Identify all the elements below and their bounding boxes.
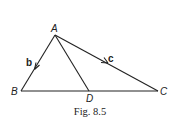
point-label-c: C [160,86,168,97]
vector-label-c: c [108,53,114,64]
figure-caption: Fig. 8.5 [74,106,106,117]
triangle-diagram: A B C D b c Fig. 8.5 [0,0,177,128]
vector-label-b: b [26,57,32,68]
point-label-d: D [86,93,93,104]
point-label-b: B [11,86,18,97]
arrow-b-icon [35,63,40,70]
point-label-a: A [50,23,58,34]
segment-ad [55,35,89,91]
